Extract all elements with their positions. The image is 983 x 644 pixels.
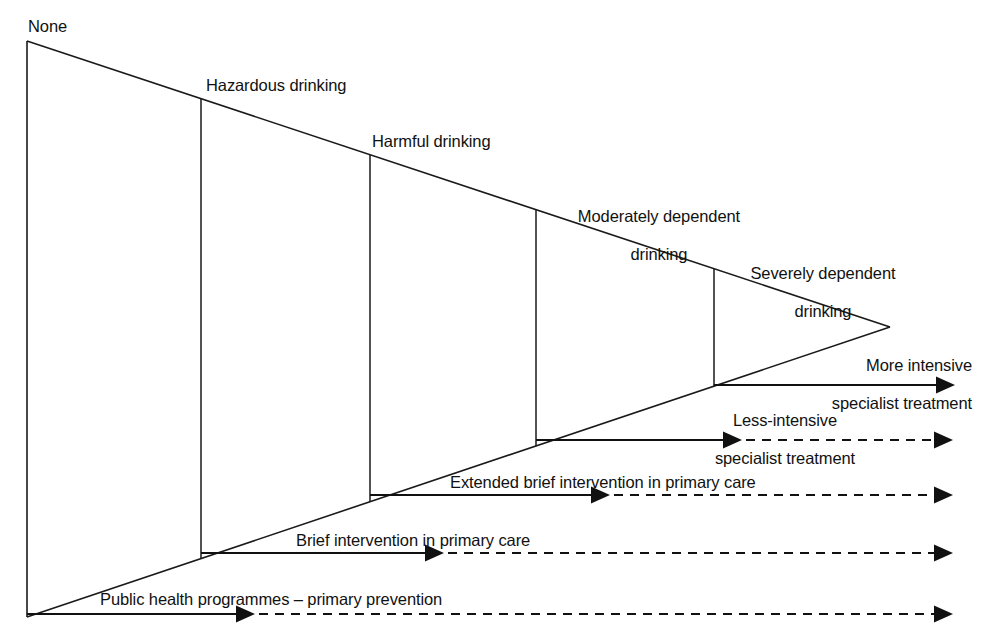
label-severity-harmful: Harmful drinking [372,132,491,151]
label-moderately-dependent-line2: drinking [630,245,687,263]
figure-root: None Hazardous drinking Harmful drinking… [0,0,983,644]
label-less-intensive-line2: specialist treatment [715,449,855,467]
label-more-intensive-line1: More intensive [866,356,972,374]
label-severity-severely-dependent: Severely dependent drinking [716,245,912,340]
label-severity-none: None [28,17,67,36]
label-intervention-extended-brief: Extended brief intervention in primary c… [450,473,756,492]
label-intervention-public-health: Public health programmes – primary preve… [100,590,442,609]
label-intervention-brief: Brief intervention in primary care [296,531,530,550]
label-moderately-dependent-line1: Moderately dependent [578,207,740,225]
label-severely-dependent-line1: Severely dependent [750,264,895,282]
label-less-intensive-line1: Less-intensive [733,411,837,429]
label-severity-hazardous: Hazardous drinking [206,76,346,95]
label-severely-dependent-line2: drinking [794,302,851,320]
